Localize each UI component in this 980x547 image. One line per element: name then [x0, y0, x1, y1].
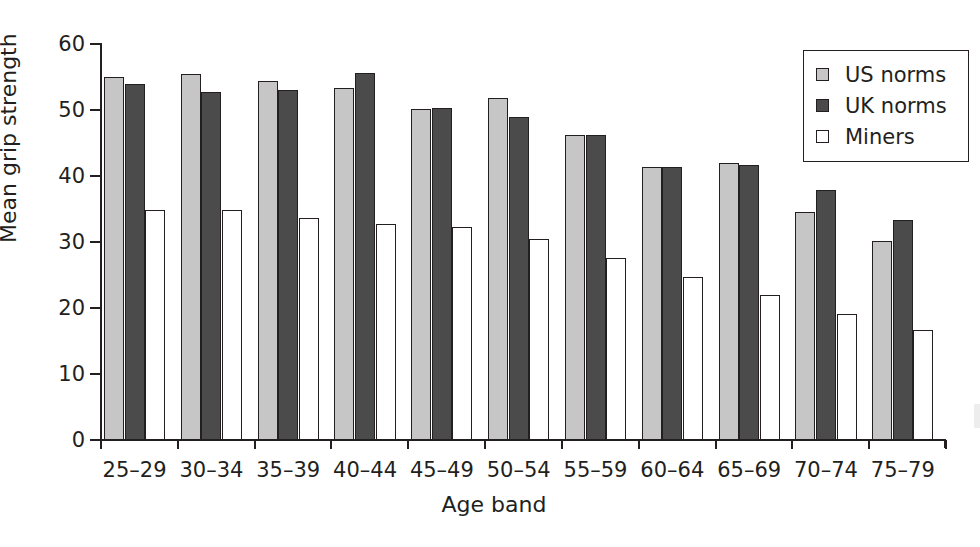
bar-miners [913, 330, 933, 440]
y-axis-tick [90, 175, 100, 177]
x-axis-tick-label: 65–69 [717, 458, 781, 482]
y-axis-tick [90, 439, 100, 441]
y-axis-tick [90, 43, 100, 45]
x-axis-tick-label: 70–74 [794, 458, 858, 482]
y-axis-tick [90, 241, 100, 243]
bar-us [488, 98, 508, 440]
x-axis-tick-label: 30–34 [179, 458, 243, 482]
bar-group [258, 44, 319, 440]
y-axis-tick-label: 40 [58, 164, 85, 188]
light-gray-swatch-icon [816, 68, 829, 81]
legend-item-uk-norms: UK norms [816, 90, 958, 121]
legend-item-miners: Miners [816, 121, 958, 152]
bar-uk [816, 190, 836, 440]
y-axis-tick [90, 373, 100, 375]
x-axis-tick [407, 440, 409, 449]
x-axis-tick [868, 440, 870, 449]
y-axis-tick-label: 10 [58, 362, 85, 386]
bar-uk [739, 165, 759, 440]
bar-group [565, 44, 626, 440]
x-axis-tick [791, 440, 793, 449]
y-axis-tick-label: 20 [58, 296, 85, 320]
bar-miners [837, 314, 857, 440]
y-axis-tick-label: 0 [72, 428, 85, 452]
bar-miners [606, 258, 626, 440]
x-axis-tick [100, 440, 102, 449]
x-axis-tick-label: 40–44 [333, 458, 397, 482]
bar-uk [201, 92, 221, 440]
bar-us [795, 212, 815, 440]
legend: US norms UK norms Miners [803, 50, 969, 162]
bar-us [411, 109, 431, 440]
bar-miners [299, 218, 319, 440]
bar-uk [355, 73, 375, 440]
x-axis-tick [945, 440, 947, 449]
bar-group [642, 44, 703, 440]
scan-edge-artifact [974, 404, 980, 428]
bar-miners [376, 224, 396, 440]
bar-group [181, 44, 242, 440]
x-axis-tick [715, 440, 717, 449]
x-axis-tick [254, 440, 256, 449]
x-axis-tick-label: 35–39 [256, 458, 320, 482]
y-axis-tick-label: 50 [58, 98, 85, 122]
legend-item-us-norms: US norms [816, 59, 958, 90]
bar-us [258, 81, 278, 440]
bar-group [411, 44, 472, 440]
y-axis-tick-label: 30 [58, 230, 85, 254]
bar-group [488, 44, 549, 440]
bar-uk [509, 117, 529, 440]
bar-miners [683, 277, 703, 440]
x-axis-tick-label: 25–29 [103, 458, 167, 482]
bar-us [719, 163, 739, 440]
bar-group [334, 44, 395, 440]
legend-label-uk-norms: UK norms [845, 94, 947, 118]
white-swatch-icon [816, 130, 829, 143]
x-axis-tick-label: 75–79 [871, 458, 935, 482]
x-axis-title: Age band [0, 492, 980, 517]
legend-label-us-norms: US norms [845, 63, 946, 87]
bar-uk [662, 167, 682, 440]
x-axis-tick-label: 45–49 [410, 458, 474, 482]
y-axis-tick [90, 109, 100, 111]
bar-miners [452, 227, 472, 440]
x-axis-tick [484, 440, 486, 449]
bar-us [565, 135, 585, 440]
bar-uk [432, 108, 452, 440]
x-axis-tick [177, 440, 179, 449]
bar-group [719, 44, 780, 440]
y-axis-tick [90, 307, 100, 309]
bar-uk [586, 135, 606, 440]
x-axis-tick [638, 440, 640, 449]
bar-group [104, 44, 165, 440]
bar-us [181, 74, 201, 440]
x-axis-tick-label: 60–64 [640, 458, 704, 482]
x-axis-tick [561, 440, 563, 449]
bar-miners [760, 295, 780, 440]
grip-strength-bar-chart: Mean grip strength 010203040506025–2930–… [0, 0, 980, 547]
bar-us [872, 241, 892, 440]
bar-us [642, 167, 662, 440]
bar-uk [278, 90, 298, 440]
bar-miners [145, 210, 165, 440]
x-axis-title-text: Age band [434, 492, 547, 517]
bar-miners [529, 239, 549, 440]
bar-us [334, 88, 354, 440]
dark-gray-swatch-icon [816, 99, 829, 112]
y-axis-title: Mean grip strength [0, 33, 21, 243]
x-axis-tick [330, 440, 332, 449]
bar-uk [893, 220, 913, 440]
x-axis-tick-label: 55–59 [564, 458, 628, 482]
bar-us [104, 77, 124, 440]
bar-uk [125, 84, 145, 440]
bar-miners [222, 210, 242, 440]
x-axis-tick-label: 50–54 [487, 458, 551, 482]
legend-label-miners: Miners [845, 125, 915, 149]
y-axis-tick-label: 60 [58, 32, 85, 56]
